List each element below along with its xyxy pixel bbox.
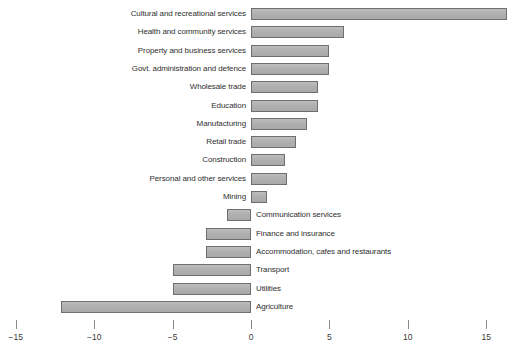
axis-tick bbox=[94, 320, 95, 329]
bar-row: Cultural and recreational services bbox=[0, 5, 514, 23]
bar[interactable] bbox=[251, 63, 329, 75]
category-label: Health and community services bbox=[138, 25, 246, 38]
category-label: Agriculture bbox=[256, 300, 293, 313]
category-label: Retail trade bbox=[206, 135, 246, 148]
bar[interactable] bbox=[173, 283, 251, 295]
category-label: Wholesale trade bbox=[190, 80, 246, 93]
axis-tick bbox=[486, 320, 487, 329]
bar-row: Property and business services bbox=[0, 42, 514, 60]
axis-tick-label: 10 bbox=[403, 332, 412, 342]
bar-row: Wholesale trade bbox=[0, 78, 514, 96]
axis-tick-label: 0 bbox=[249, 332, 254, 342]
bar[interactable] bbox=[61, 301, 251, 313]
bar[interactable] bbox=[227, 209, 251, 221]
bar-row: Retail trade bbox=[0, 133, 514, 151]
bar[interactable] bbox=[206, 246, 251, 258]
axis-tick bbox=[251, 320, 252, 329]
bar[interactable] bbox=[251, 118, 307, 130]
bar-row: Transport bbox=[0, 261, 514, 279]
bar-row: Personal and other services bbox=[0, 170, 514, 188]
axis-tick-label: −5 bbox=[168, 332, 178, 342]
x-axis: −15−10−5051015 bbox=[0, 316, 514, 358]
bar-row: Agriculture bbox=[0, 298, 514, 316]
category-label: Property and business services bbox=[138, 44, 246, 57]
bar[interactable] bbox=[251, 81, 318, 93]
bar-row: Health and community services bbox=[0, 23, 514, 41]
axis-tick-label: −10 bbox=[87, 332, 101, 342]
category-label: Communication services bbox=[256, 208, 341, 221]
bar[interactable] bbox=[173, 264, 251, 276]
bar-row: Accommodation, cafes and restaurants bbox=[0, 243, 514, 261]
bar-chart: Cultural and recreational servicesHealth… bbox=[0, 0, 514, 358]
axis-tick-label: −15 bbox=[9, 332, 23, 342]
bar-row: Manufacturing bbox=[0, 115, 514, 133]
bar[interactable] bbox=[251, 8, 507, 20]
bar[interactable] bbox=[206, 228, 251, 240]
bar[interactable] bbox=[251, 191, 267, 203]
axis-tick bbox=[408, 320, 409, 329]
bar[interactable] bbox=[251, 45, 329, 57]
category-label: Cultural and recreational services bbox=[131, 7, 246, 20]
axis-tick bbox=[329, 320, 330, 329]
bar[interactable] bbox=[251, 154, 285, 166]
bar-row: Utilities bbox=[0, 280, 514, 298]
category-label: Govt. administration and defence bbox=[132, 62, 246, 75]
bar[interactable] bbox=[251, 173, 287, 185]
axis-tick-label: 5 bbox=[327, 332, 332, 342]
category-label: Personal and other services bbox=[150, 172, 246, 185]
bar-row: Govt. administration and defence bbox=[0, 60, 514, 78]
category-label: Finance and insurance bbox=[256, 227, 335, 240]
bar[interactable] bbox=[251, 26, 344, 38]
bar-row: Construction bbox=[0, 151, 514, 169]
plot-area: Cultural and recreational servicesHealth… bbox=[0, 0, 514, 316]
bar-row: Finance and insurance bbox=[0, 225, 514, 243]
bar[interactable] bbox=[251, 136, 296, 148]
axis-tick bbox=[16, 320, 17, 329]
category-label: Accommodation, cafes and restaurants bbox=[256, 245, 391, 258]
bar-row: Mining bbox=[0, 188, 514, 206]
bar-row: Communication services bbox=[0, 206, 514, 224]
category-label: Mining bbox=[223, 190, 246, 203]
bar-row: Education bbox=[0, 97, 514, 115]
axis-tick bbox=[173, 320, 174, 329]
category-label: Transport bbox=[256, 263, 289, 276]
category-label: Utilities bbox=[256, 282, 281, 295]
bar[interactable] bbox=[251, 100, 318, 112]
category-label: Manufacturing bbox=[197, 117, 246, 130]
axis-tick-label: 15 bbox=[481, 332, 490, 342]
category-label: Construction bbox=[202, 153, 246, 166]
category-label: Education bbox=[211, 99, 246, 112]
